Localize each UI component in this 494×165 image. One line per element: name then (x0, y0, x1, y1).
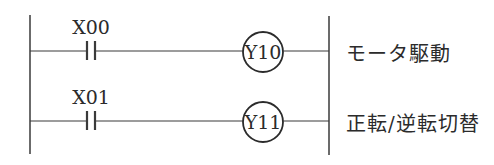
contact-label: X00 (72, 16, 110, 38)
ladder-diagram: X00 Y10 X01 Y11 モータ駆動 正転/逆転切替 (0, 0, 494, 165)
rung-1: X00 Y10 (30, 16, 329, 72)
rung-comment: 正転/逆転切替 (346, 108, 480, 137)
coil-icon: Y10 (243, 32, 283, 72)
coil-label: Y10 (244, 41, 282, 63)
coil-label: Y11 (244, 111, 282, 133)
coil-icon: Y11 (243, 102, 283, 142)
no-contact-icon (87, 111, 95, 130)
rung-2: X01 Y11 (30, 86, 329, 142)
contact-label: X01 (72, 86, 110, 108)
no-contact-icon (87, 41, 95, 60)
rung-comment: モータ駆動 (346, 38, 451, 67)
